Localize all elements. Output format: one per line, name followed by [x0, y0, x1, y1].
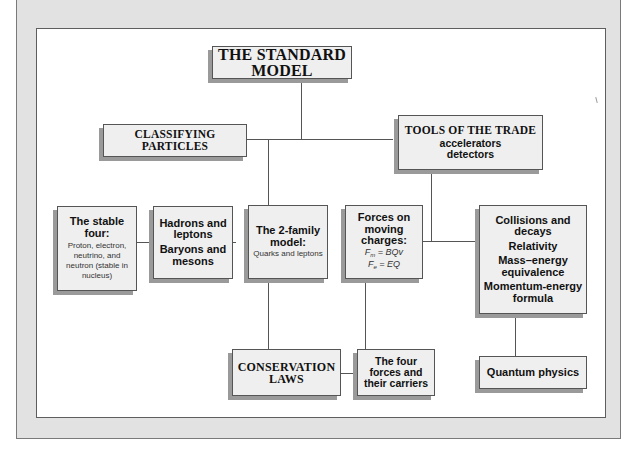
node-label: Quantum physics: [487, 367, 579, 379]
node-title: TOOLS OF THE TRADE: [405, 125, 536, 137]
connector-forces-fourforces: [365, 279, 366, 349]
node-tools-of-the-trade: TOOLS OF THE TRADE accelerators detector…: [398, 115, 543, 170]
node-item: their carriers: [364, 378, 428, 389]
node-item: equivalence: [502, 267, 565, 279]
node-body: Proton, electron, neutrino, and neutron …: [61, 241, 133, 281]
node-item: leptons: [173, 229, 212, 241]
connector-stable-hadrons: [137, 242, 153, 243]
formula-magnetic-force: Fm = BQv: [365, 247, 403, 260]
connector-tools-down: [431, 170, 432, 241]
connector-to-2family: [268, 139, 269, 205]
connector-forces-collisions: [423, 241, 479, 242]
node-label: PARTICLES: [142, 141, 208, 153]
node-body: Quarks and leptons: [253, 249, 322, 259]
node-item: decays: [514, 226, 551, 238]
node-title: The stable: [70, 216, 124, 228]
node-item: mesons: [172, 256, 214, 268]
connector-title-down: [301, 79, 302, 139]
node-title: THE STANDARD MODEL: [213, 47, 351, 79]
node-item: Relativity: [509, 241, 558, 253]
node-label: LAWS: [269, 373, 304, 385]
node-conservation-laws: CONSERVATION LAWS: [232, 349, 341, 396]
node-label: CLASSIFYING: [135, 129, 216, 141]
node-title: charges:: [361, 235, 407, 247]
formula-electric-force: Fe = EQ: [368, 259, 400, 272]
connector-collisions-quantum: [515, 314, 516, 356]
node-item: Baryons and: [160, 244, 227, 256]
node-standard-model: THE STANDARD MODEL: [212, 46, 352, 79]
node-forces-moving-charges: Forces on moving charges: Fm = BQv Fe = …: [345, 205, 423, 279]
node-two-family-model: The 2-family model: Quarks and leptons: [248, 205, 328, 279]
node-item: formula: [513, 293, 553, 305]
node-item: detectors: [447, 149, 494, 160]
node-hadrons-leptons: Hadrons and leptons Baryons and mesons: [153, 206, 233, 279]
node-title: Forces on: [358, 212, 411, 224]
node-collisions-relativity: Collisions and decays Relativity Mass–en…: [479, 205, 587, 314]
node-title: model:: [270, 237, 306, 249]
node-classifying-particles: CLASSIFYING PARTICLES: [103, 124, 247, 157]
node-quantum-physics: Quantum physics: [479, 356, 587, 389]
node-title: four:: [84, 228, 109, 240]
connector-2family-conservation: [268, 279, 269, 349]
node-label: CONSERVATION: [238, 361, 336, 373]
node-stable-four: The stable four: Proton, electron, neutr…: [57, 206, 137, 291]
node-four-forces: The four forces and their carriers: [357, 349, 435, 396]
connector-conservation-fourforces: [341, 373, 357, 374]
